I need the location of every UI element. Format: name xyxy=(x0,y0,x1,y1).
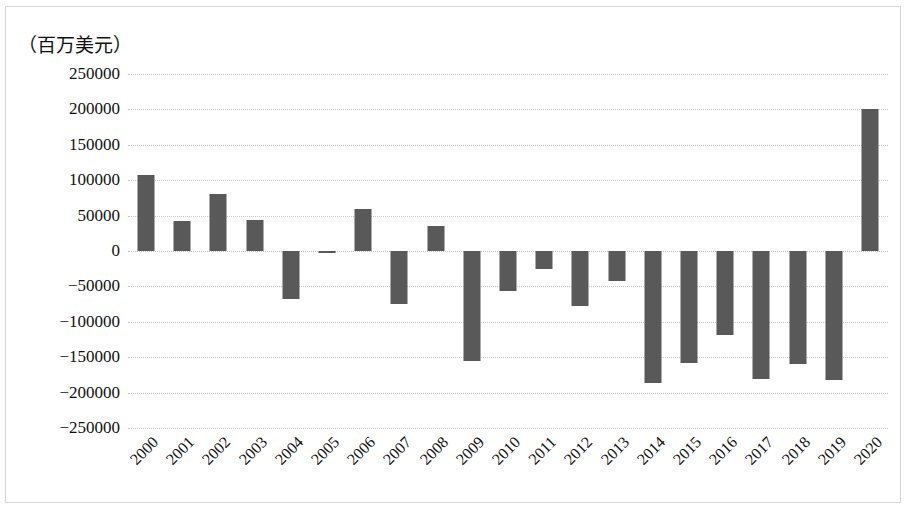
y-tick-label: −100000 xyxy=(59,313,120,330)
bar-slot xyxy=(707,74,743,428)
bar-slot xyxy=(418,74,454,428)
y-tick-label: 100000 xyxy=(69,171,120,188)
bar-slot xyxy=(598,74,634,428)
bar-series xyxy=(128,74,888,428)
x-tick-label-2006: 2006 xyxy=(338,434,379,475)
bar-2015[interactable] xyxy=(680,251,697,363)
bar-2004[interactable] xyxy=(282,251,299,299)
bar-2016[interactable] xyxy=(717,251,734,335)
bar-2011[interactable] xyxy=(536,251,553,269)
bar-slot xyxy=(562,74,598,428)
bar-2006[interactable] xyxy=(355,209,372,251)
bar-slot xyxy=(273,74,309,428)
bar-2001[interactable] xyxy=(174,221,191,251)
bar-slot xyxy=(309,74,345,428)
y-tick-label: 250000 xyxy=(69,65,120,82)
x-tick-label-2016: 2016 xyxy=(699,434,740,475)
bar-slot xyxy=(779,74,815,428)
bar-2007[interactable] xyxy=(391,251,408,304)
bar-2017[interactable] xyxy=(753,251,770,379)
y-tick-label: 50000 xyxy=(78,207,121,224)
bar-slot xyxy=(852,74,888,428)
y-tick-label: 0 xyxy=(112,242,121,259)
bar-slot xyxy=(381,74,417,428)
bar-2019[interactable] xyxy=(825,251,842,380)
bar-slot xyxy=(454,74,490,428)
x-tick-label-2019: 2019 xyxy=(808,434,849,475)
bar-slot xyxy=(490,74,526,428)
x-tick-label-2015: 2015 xyxy=(663,434,704,475)
bar-2012[interactable] xyxy=(572,251,589,306)
bar-slot xyxy=(743,74,779,428)
x-tick-label-2011: 2011 xyxy=(518,434,559,475)
y-axis-tick-labels: 250000200000150000100000500000−50000−100… xyxy=(30,74,120,428)
x-tick-label-2007: 2007 xyxy=(374,434,415,475)
x-axis-tick-labels: 2000200120022003200420052006200720082009… xyxy=(128,428,888,508)
bar-2005[interactable] xyxy=(319,251,336,253)
x-tick-label-2001: 2001 xyxy=(157,434,198,475)
bar-slot xyxy=(816,74,852,428)
y-axis-unit-label: （百万美元） xyxy=(18,30,132,57)
x-tick-label-2017: 2017 xyxy=(736,434,777,475)
y-tick-label: −200000 xyxy=(59,384,120,401)
x-tick-label-2004: 2004 xyxy=(265,434,306,475)
y-tick-label: −50000 xyxy=(68,277,120,294)
x-tick-label-2000: 2000 xyxy=(120,434,161,475)
bar-2018[interactable] xyxy=(789,251,806,364)
bar-slot xyxy=(635,74,671,428)
x-tick-label-2008: 2008 xyxy=(410,434,451,475)
x-tick-label-2018: 2018 xyxy=(772,434,813,475)
bar-slot xyxy=(200,74,236,428)
chart-figure: （百万美元） 250000200000150000100000500000−50… xyxy=(0,0,908,515)
x-tick-label-2003: 2003 xyxy=(229,434,270,475)
x-tick-label-2012: 2012 xyxy=(555,434,596,475)
y-tick-label: −250000 xyxy=(59,419,120,436)
bar-2000[interactable] xyxy=(138,175,155,251)
x-tick-label-2020: 2020 xyxy=(844,434,885,475)
bar-2008[interactable] xyxy=(427,226,444,251)
bar-slot xyxy=(237,74,273,428)
bar-2020[interactable] xyxy=(861,109,878,251)
x-tick-label-2002: 2002 xyxy=(193,434,234,475)
bar-2002[interactable] xyxy=(210,194,227,251)
bar-slot xyxy=(345,74,381,428)
plot-area xyxy=(128,74,888,428)
bar-slot xyxy=(164,74,200,428)
bar-2014[interactable] xyxy=(644,251,661,383)
x-tick-label-2005: 2005 xyxy=(301,434,342,475)
x-tick-label-2009: 2009 xyxy=(446,434,487,475)
bar-slot xyxy=(526,74,562,428)
bar-slot xyxy=(671,74,707,428)
bar-slot xyxy=(128,74,164,428)
bar-2009[interactable] xyxy=(463,251,480,361)
bar-2013[interactable] xyxy=(608,251,625,281)
x-tick-label-2013: 2013 xyxy=(591,434,632,475)
y-tick-label: −150000 xyxy=(59,348,120,365)
y-tick-label: 200000 xyxy=(69,100,120,117)
x-tick-label-2014: 2014 xyxy=(627,434,668,475)
bar-2003[interactable] xyxy=(246,220,263,251)
bar-2010[interactable] xyxy=(499,251,516,291)
y-tick-label: 150000 xyxy=(69,136,120,153)
x-tick-label-2010: 2010 xyxy=(482,434,523,475)
